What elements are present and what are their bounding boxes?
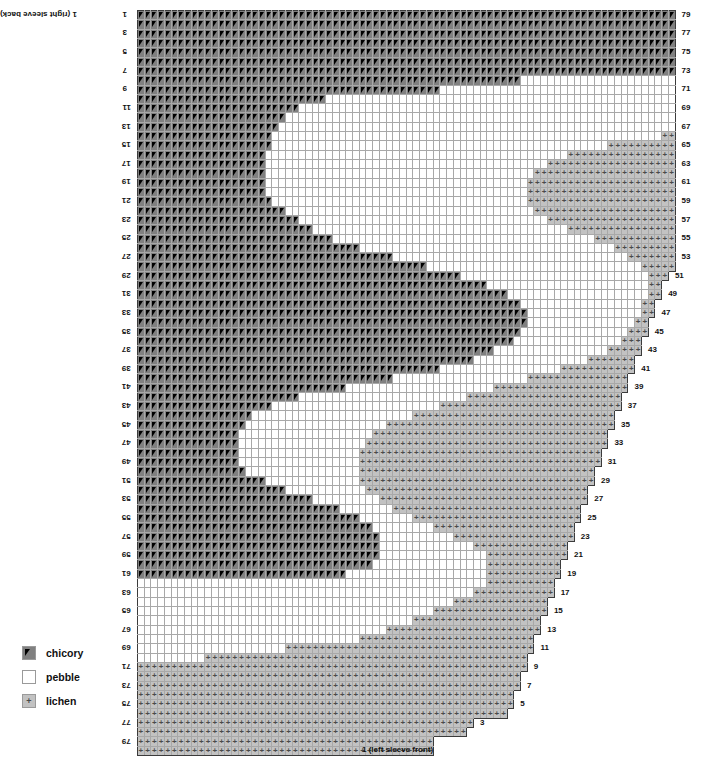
right-row-label: 31 bbox=[608, 457, 617, 466]
right-row-label: 45 bbox=[655, 327, 664, 336]
right-row-label: 65 bbox=[682, 140, 691, 149]
right-row-label: 21 bbox=[574, 550, 583, 559]
right-row-label: 77 bbox=[682, 28, 691, 37]
right-row-label: 43 bbox=[648, 345, 657, 354]
legend-label: pebble bbox=[46, 671, 80, 683]
right-row-label: 61 bbox=[682, 177, 691, 186]
triangle-icon bbox=[22, 646, 36, 660]
legend-label: chicory bbox=[46, 647, 83, 659]
right-row-label: 17 bbox=[561, 588, 570, 597]
right-row-label: 7 bbox=[527, 681, 531, 690]
right-row-label: 41 bbox=[641, 364, 650, 373]
right-row-label: 27 bbox=[594, 494, 603, 503]
legend-item-pebble[interactable]: pebble bbox=[22, 665, 132, 689]
bottom-right-row-label: 1 (left sleeve front) bbox=[362, 745, 433, 754]
chart-page: 1 (right sleeve back) 135791113151719212… bbox=[0, 0, 718, 782]
right-row-label: 51 bbox=[675, 271, 684, 280]
right-row-label: 69 bbox=[682, 103, 691, 112]
right-row-label: 53 bbox=[682, 252, 691, 261]
right-row-label: 37 bbox=[628, 401, 637, 410]
right-row-label: 57 bbox=[682, 215, 691, 224]
legend: chicory pebble lichen bbox=[22, 641, 132, 713]
right-row-label: 5 bbox=[520, 699, 524, 708]
legend-label: lichen bbox=[46, 695, 76, 707]
right-row-label: 39 bbox=[635, 382, 644, 391]
right-row-label: 73 bbox=[682, 66, 691, 75]
right-row-label: 63 bbox=[682, 159, 691, 168]
right-row-label: 49 bbox=[668, 289, 677, 298]
right-row-label: 13 bbox=[547, 625, 556, 634]
right-row-label: 59 bbox=[682, 196, 691, 205]
right-row-label: 3 bbox=[480, 718, 484, 727]
right-row-label: 23 bbox=[581, 532, 590, 541]
right-row-label: 33 bbox=[614, 438, 623, 447]
legend-item-chicory[interactable]: chicory bbox=[22, 641, 132, 665]
right-row-label: 67 bbox=[682, 122, 691, 131]
right-row-label: 25 bbox=[588, 513, 597, 522]
right-row-label: 47 bbox=[661, 308, 670, 317]
right-row-label: 55 bbox=[682, 233, 691, 242]
right-row-label: 79 bbox=[682, 10, 691, 19]
right-row-label: 35 bbox=[621, 420, 630, 429]
legend-item-lichen[interactable]: lichen bbox=[22, 689, 132, 713]
right-row-label: 11 bbox=[540, 643, 548, 652]
right-row-label: 75 bbox=[682, 47, 691, 56]
right-row-label: 15 bbox=[554, 606, 563, 615]
right-row-label: 9 bbox=[534, 662, 538, 671]
plus-icon bbox=[22, 694, 36, 708]
right-row-label: 71 bbox=[682, 84, 691, 93]
blank-icon bbox=[22, 670, 36, 684]
right-row-label: 19 bbox=[567, 569, 576, 578]
right-row-label: 29 bbox=[601, 476, 610, 485]
